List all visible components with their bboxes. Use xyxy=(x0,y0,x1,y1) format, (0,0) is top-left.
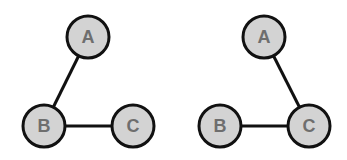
node-b: B xyxy=(199,105,241,147)
node-c: C xyxy=(288,105,330,147)
node-c: C xyxy=(112,105,154,147)
graph-diagram: A B C A B C xyxy=(0,0,347,160)
node-label: B xyxy=(214,116,227,136)
node-label: A xyxy=(82,27,95,47)
node-label: B xyxy=(38,116,51,136)
node-a: A xyxy=(243,16,285,58)
node-label: C xyxy=(303,116,316,136)
node-label: A xyxy=(258,27,271,47)
node-a: A xyxy=(67,16,109,58)
left-graph: A B C xyxy=(23,16,154,147)
right-graph: A B C xyxy=(199,16,330,147)
node-label: C xyxy=(127,116,140,136)
node-b: B xyxy=(23,105,65,147)
